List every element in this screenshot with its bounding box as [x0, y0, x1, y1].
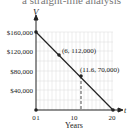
y-tick-120000: $120,000 — [7, 48, 34, 56]
x-axis-label: Years — [65, 121, 83, 130]
x-axis-var: t — [124, 106, 127, 115]
x-tick-1: 1 — [36, 114, 40, 122]
y-tick-40000: $40,000 — [10, 87, 33, 95]
y-axis-label: V — [33, 7, 40, 17]
annotation-6-112000: (6, 112,000) — [62, 47, 97, 55]
annotation-11-6-70000: (11.6, 70,000) — [80, 66, 120, 74]
axes — [34, 15, 123, 112]
y-tick-80000: $80,000 — [10, 68, 33, 76]
depreciation-chart: V t $160,000 $120,000 $80,000 $40,000 0 … — [0, 0, 134, 130]
point-6 — [57, 53, 61, 57]
x-tick-20: 20 — [109, 114, 117, 122]
point-11-6 — [79, 74, 83, 78]
point-0 — [34, 30, 38, 34]
point-20 — [111, 108, 115, 112]
y-tick-160000: $160,000 — [7, 29, 34, 37]
origin-point — [34, 108, 38, 112]
